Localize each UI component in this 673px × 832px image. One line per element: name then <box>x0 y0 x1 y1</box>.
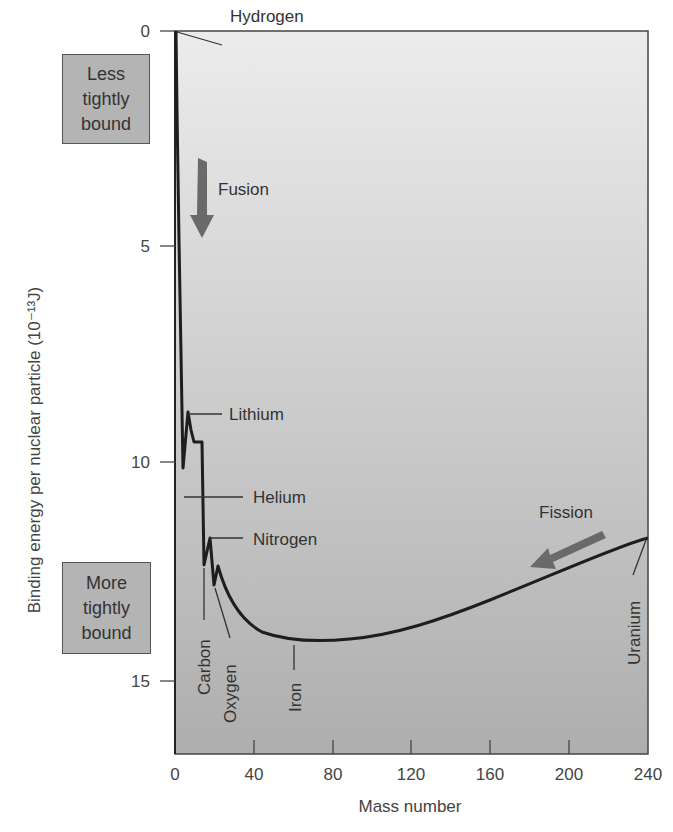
oxygen-label: Oxygen <box>221 664 240 723</box>
x-tick-label: 120 <box>397 765 425 784</box>
y-tick-label: 15 <box>131 672 150 691</box>
iron-label: Iron <box>286 683 305 712</box>
hydrogen-label: Hydrogen <box>230 7 304 26</box>
x-tick-label: 0 <box>170 765 179 784</box>
less-box-line: tightly <box>81 87 131 112</box>
y-ticks <box>160 31 175 681</box>
more-box-line: bound <box>81 621 131 646</box>
y-tick-label: 0 <box>141 22 150 41</box>
less-box-line: Less <box>81 62 131 87</box>
x-tick-label: 160 <box>476 765 504 784</box>
carbon-label: Carbon <box>195 639 214 695</box>
x-tick-label: 40 <box>245 765 264 784</box>
less-tightly-bound-box: Less tightly bound <box>62 54 150 144</box>
y-tick-label: 10 <box>131 453 150 472</box>
plot-area <box>175 31 648 754</box>
lithium-label: Lithium <box>229 405 284 424</box>
nitrogen-label: Nitrogen <box>253 530 317 549</box>
more-tightly-bound-box: More tightly bound <box>62 562 151 654</box>
fusion-label: Fusion <box>218 180 269 199</box>
x-tick-labels: 0 40 80 120 160 200 240 <box>170 765 662 784</box>
less-box-line: bound <box>81 112 131 137</box>
y-tick-label: 5 <box>141 237 150 256</box>
fission-label: Fission <box>539 503 593 522</box>
x-tick-label: 240 <box>634 765 662 784</box>
x-axis-label: Mass number <box>359 797 462 817</box>
more-box-line: More <box>81 571 131 596</box>
helium-label: Helium <box>253 488 306 507</box>
more-box-line: tightly <box>81 596 131 621</box>
x-tick-label: 200 <box>555 765 583 784</box>
uranium-label: Uranium <box>625 601 644 665</box>
x-tick-label: 80 <box>324 765 343 784</box>
y-axis-label: Binding energy per nuclear particle (10⁻… <box>24 287 45 614</box>
